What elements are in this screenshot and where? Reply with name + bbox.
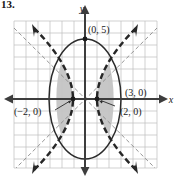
y-axis-arrow-down [81, 167, 90, 176]
point-label-3-0: (3, 0) [125, 87, 147, 99]
x-axis-label: x [168, 94, 174, 105]
graph-figure: x y (0, 5) (3, 0) (2, 0) (−2, 0) [0, 0, 180, 176]
y-axis-label: y [79, 3, 85, 14]
point-2-0 [95, 97, 100, 102]
point-0-5 [83, 37, 88, 42]
point-label-neg2-0: (−2, 0) [14, 106, 41, 118]
coordinate-plane-svg: x y (0, 5) (3, 0) (2, 0) (−2, 0) [0, 0, 180, 176]
point-neg2-0 [71, 97, 76, 102]
x-axis-arrow-left [4, 95, 13, 104]
point-label-2-0: (2, 0) [120, 106, 142, 118]
point-label-0-5: (0, 5) [88, 24, 110, 36]
x-axis-arrow-right [159, 95, 168, 104]
